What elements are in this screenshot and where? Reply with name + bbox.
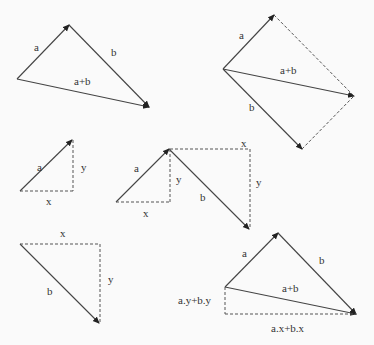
dashed-a-copy (302, 96, 354, 149)
vector-a (20, 140, 72, 191)
vector-a (17, 25, 69, 79)
label-y2: y (256, 176, 262, 188)
label-a: a (239, 29, 244, 41)
label-b: b (47, 285, 53, 297)
label-b: b (319, 254, 325, 266)
components-chain-diagram: a y x b x y (116, 137, 262, 229)
label-y1: y (176, 173, 182, 185)
components-b-diagram: x y b (20, 227, 114, 323)
component-sum-diagram: a b a+b a.y+b.y a.x+b.x (178, 233, 356, 334)
label-x1: x (143, 207, 149, 219)
label-b: b (200, 191, 206, 203)
vector-b (69, 25, 149, 107)
label-x2: x (241, 137, 247, 149)
label-b: b (111, 46, 117, 58)
diagram-canvas: a b a+b a b a+b a y x a y x b x y (0, 0, 374, 345)
label-b: b (249, 101, 255, 113)
label-sum: a+b (74, 75, 91, 87)
dashed-b-copy (274, 15, 354, 96)
label-a: a (37, 161, 42, 173)
label-a: a (34, 41, 39, 53)
vector-a (223, 15, 274, 69)
vector-addition-diagram: a b a+b a b a+b a y x a y x b x y (0, 0, 374, 345)
label-sum: a+b (280, 64, 297, 76)
parallelogram-sum-diagram: a b a+b (223, 15, 354, 149)
vector-b (278, 233, 356, 314)
label-x: x (60, 227, 66, 239)
label-xsum: a.x+b.x (271, 322, 305, 334)
vector-b (20, 244, 99, 323)
vector-a (225, 233, 278, 287)
label-ysum: a.y+b.y (178, 294, 212, 306)
label-x: x (46, 195, 52, 207)
label-y: y (81, 161, 87, 173)
label-a: a (242, 247, 247, 259)
components-a-diagram: a y x (20, 140, 87, 207)
vector-b (169, 149, 249, 229)
triangle-sum-diagram: a b a+b (17, 25, 149, 107)
vector-b (223, 69, 302, 149)
label-sum: a+b (282, 282, 299, 294)
label-y: y (108, 273, 114, 285)
vector-a (116, 149, 169, 202)
label-a: a (134, 162, 139, 174)
